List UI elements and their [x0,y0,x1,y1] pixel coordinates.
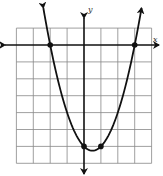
data-point [132,42,138,48]
data-point [47,42,53,48]
y-axis-label: y [87,5,93,14]
data-point [81,144,87,150]
parabola-graph: x y [0,0,163,176]
x-axis-label: x [153,35,158,44]
data-point [98,144,104,150]
